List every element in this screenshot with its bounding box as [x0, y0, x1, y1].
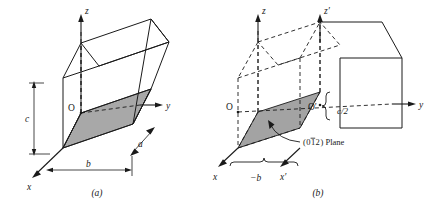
axis-label-z-b: z [261, 6, 266, 16]
dim-a-a-arrow-down [130, 148, 139, 156]
dim-label-minus-b: −b [250, 173, 261, 183]
brace-c-half [322, 92, 330, 120]
dim-c-a-arrow-top [32, 81, 36, 88]
figure-svg: z y x O c b [0, 0, 434, 202]
origin-label-a: O [68, 103, 75, 113]
cell-a-top-face [81, 19, 169, 66]
origin-prime-b-dot [319, 104, 322, 107]
panel-b: z z′ y x x′ O O′ [212, 6, 424, 199]
plane-label-group: ( 0 1 2 ) Plane [303, 137, 345, 147]
axis-y-a-arrowhead [155, 102, 163, 107]
axis-label-y-b: y [418, 100, 424, 110]
axis-label-xprime-b: x′ [279, 172, 287, 182]
dim-b-a-arrow-left [46, 168, 53, 172]
dim-label-b-a: b [86, 159, 91, 169]
caption-panel-b: (b) [312, 188, 323, 199]
axis-x-a-arrowhead [32, 170, 41, 178]
origin-label-b: O [226, 102, 233, 112]
crystallography-figure: z y x O c b [0, 0, 434, 202]
axis-zprime-b-arrowhead [317, 14, 323, 22]
axis-label-z-a: z [84, 6, 89, 16]
panel-a: z y x O c b [25, 6, 171, 199]
axis-xprime-b-arrowhead [280, 159, 289, 167]
dim-c-a-arrow-bottom [32, 149, 36, 156]
axis-z-a-arrowhead [78, 14, 84, 22]
dim-a-a-arrow-up [146, 127, 155, 135]
axis-label-x-b: x [212, 172, 218, 182]
axis-label-zprime-b: z′ [323, 6, 331, 16]
axis-label-x-a: x [26, 182, 32, 192]
cell-a-edge-top-right-front [99, 42, 169, 66]
plane-label-close: ) [320, 137, 323, 147]
plane-index-l: 2 [316, 137, 320, 147]
dim-label-c-a: c [25, 114, 30, 124]
axis-z-b-arrowhead [255, 14, 261, 22]
dim-label-a-a: a [138, 139, 143, 149]
axis-y-b-arrowhead [408, 101, 416, 106]
dim-label-c-half-b: c/2 [337, 106, 348, 116]
cell-b-solid [300, 22, 404, 148]
dim-b-a-arrow-right [125, 168, 132, 172]
caption-panel-a: (a) [91, 188, 102, 199]
origin-b-dot [237, 111, 240, 114]
plane-index-h: 0 [306, 137, 310, 147]
plane-label-suffix: Plane [326, 137, 345, 147]
origin-prime-label-b: O′ [308, 102, 317, 112]
origin-a-dot [80, 112, 83, 115]
axis-x-b-arrowhead [218, 159, 227, 167]
axis-label-y-a: y [165, 101, 171, 111]
